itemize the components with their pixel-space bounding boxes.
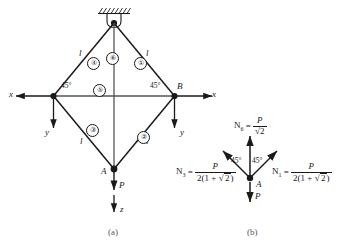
N3-subscript: 3 [183,172,186,178]
N1-numerator: P [291,162,332,173]
truss-node-bottom-A [111,166,118,173]
N1-equals: = [284,167,289,177]
N6-denominator: √2 [255,126,264,136]
member-number-4: ④ [87,57,100,70]
N6-equals: = [246,121,251,131]
N1-equation: N1 = P 2(1 + √2) [272,162,332,183]
load-P-label: P [119,181,125,190]
truss-figure [0,0,356,251]
N1-den-prefix: 2(1 + [293,173,315,183]
member-number-5: ⑤ [93,84,106,97]
member-3-length-label: l [80,137,83,146]
truss-node-left [50,93,56,99]
angle-right-45: 45° [150,82,161,90]
y-axis-left-label: y [45,128,49,137]
N3-numerator: P [195,162,236,173]
N1-fraction: P 2(1 + √2) [291,162,332,183]
node-B-label: B [177,82,183,91]
N1-den-suffix: ) [327,173,330,183]
member-number-6: ⑥ [106,52,119,65]
N1-subscript: 1 [279,172,282,178]
N3-den-prefix: 2(1 + [197,173,219,183]
x-axis-left-label: x [9,90,13,99]
N3-den-suffix: ) [231,173,234,183]
member-4-length-label: l [79,49,82,58]
N3-equation: N3 = P 2(1 + √2) [176,162,236,183]
member-number-1: ① [134,57,147,70]
N6-subscript: 6 [241,125,244,131]
truss-node-right-B [171,93,177,99]
caption-a: (a) [108,228,118,237]
caption-b: (b) [247,228,258,237]
N3-equals: = [188,167,193,177]
y-axis-right-label: y [180,128,184,137]
N6-equation: N6 = P √2 [234,116,267,136]
member-number-2: ② [137,131,150,144]
truss-member-3 [54,96,115,169]
fbd-angle-right-45: 45° [252,157,263,165]
fbd-node-A-label: A [256,180,262,189]
angle-left-45: 45° [61,82,72,90]
node-A-label: A [101,167,107,176]
N3-fraction: P 2(1 + √2) [195,162,236,183]
z-axis-label: z [120,205,124,214]
member-1-length-label: l [146,49,149,58]
fbd-load-P-label: P [255,192,261,201]
x-axis-right-label: x [212,90,216,99]
N6-numerator: P [253,116,266,127]
N6-fraction: P √2 [253,116,266,136]
support-hatching [98,8,131,14]
member-number-3: ③ [86,124,99,137]
